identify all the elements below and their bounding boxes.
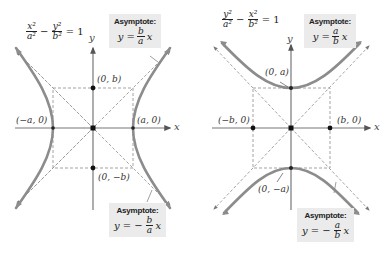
left-hyperbola-graph <box>15 48 170 210</box>
left-asymptote-top-box: Asymptote: y = b a x <box>109 14 161 48</box>
right-eq-term1: y² a² <box>222 10 233 29</box>
left-covertex-top-label: (0, b) <box>97 74 121 84</box>
right-vertex-top-label: (0, a) <box>265 67 289 77</box>
left-vertex-left-point <box>51 126 55 130</box>
right-covertex-left-label: (−b, 0) <box>218 115 250 125</box>
left-vertex-left-label: (−a, 0) <box>16 115 47 125</box>
right-covertex-right-label: (b, 0) <box>337 115 361 125</box>
left-center-point <box>91 126 96 131</box>
right-x-axis-label: x <box>374 122 380 132</box>
left-equation: x² a² − y² b² = 1 <box>26 22 85 41</box>
left-eq-term1: x² a² <box>26 22 37 41</box>
right-vertex-bottom-label: (0, −a) <box>258 184 289 194</box>
left-eq-term2: y² b² <box>51 22 62 41</box>
right-asymptote-bottom-box: Asymptote: y = − a b x <box>297 208 354 242</box>
right-covertex-right-point <box>328 126 333 131</box>
left-covertex-top-point <box>91 86 96 91</box>
left-x-axis-label: x <box>174 122 180 132</box>
left-asymptote-positive-ext <box>17 128 93 204</box>
right-equation: y² a² − x² b² = 1 <box>222 10 281 29</box>
right-vertex-bottom-point <box>289 166 293 170</box>
right-y-axis-label: y <box>287 34 293 44</box>
left-y-axis-label: y <box>89 33 95 43</box>
left-asymptote-bottom-box: Asymptote: y = − b a x <box>109 203 166 237</box>
left-covertex-bottom-point <box>91 166 96 171</box>
right-hyperbola-graph <box>212 41 370 215</box>
left-covertex-bottom-label: (0, −b) <box>98 172 130 182</box>
right-center-point <box>289 126 294 131</box>
left-vertex-right-point <box>131 126 135 130</box>
right-asymptote-top-box: Asymptote: y = a b x <box>304 14 356 48</box>
right-covertex-left-point <box>251 126 256 131</box>
left-vertex-right-label: (a, 0) <box>137 115 161 125</box>
right-vertex-top-point <box>289 86 293 90</box>
right-eq-term2: x² b² <box>247 10 258 29</box>
